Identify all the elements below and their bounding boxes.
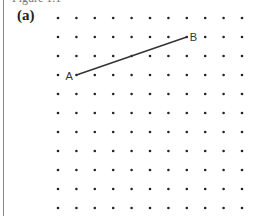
grid-dot bbox=[94, 188, 97, 191]
grid-dot bbox=[94, 17, 97, 20]
grid-dot bbox=[149, 150, 152, 153]
grid-dot bbox=[57, 17, 60, 20]
grid-dot bbox=[75, 36, 78, 39]
grid-dot bbox=[112, 93, 115, 96]
grid-dot bbox=[94, 207, 97, 210]
grid-dot bbox=[222, 169, 225, 172]
point-label-a: A bbox=[65, 70, 73, 82]
grid-dot bbox=[112, 150, 115, 153]
grid-dot bbox=[75, 169, 78, 172]
grid-dot bbox=[186, 93, 189, 96]
grid-dot bbox=[57, 169, 60, 172]
grid-dot bbox=[130, 131, 133, 134]
grid-dot bbox=[204, 150, 207, 153]
grid-dot bbox=[112, 112, 115, 115]
grid-dot bbox=[75, 150, 78, 153]
grid-dot bbox=[241, 150, 244, 153]
point-label-b: B bbox=[190, 31, 197, 43]
grid-dot bbox=[186, 207, 189, 210]
grid-dot bbox=[112, 188, 115, 191]
grid-dot bbox=[241, 112, 244, 115]
grid-dot bbox=[186, 188, 189, 191]
grid-dot bbox=[186, 131, 189, 134]
grid-dot bbox=[167, 17, 170, 20]
grid-dot bbox=[112, 74, 115, 77]
grid-dot bbox=[186, 17, 189, 20]
grid-dot bbox=[241, 55, 244, 58]
grid-dot bbox=[149, 131, 152, 134]
grid-dot bbox=[204, 131, 207, 134]
grid-dot bbox=[241, 188, 244, 191]
grid-dot bbox=[222, 36, 225, 39]
grid-dot bbox=[167, 93, 170, 96]
grid-dot bbox=[241, 207, 244, 210]
grid-dot bbox=[167, 188, 170, 191]
grid-dot bbox=[222, 17, 225, 20]
grid-dot bbox=[130, 150, 133, 153]
grid-dot bbox=[75, 131, 78, 134]
grid-dot bbox=[186, 150, 189, 153]
grid-dot bbox=[57, 93, 60, 96]
grid-dot bbox=[75, 188, 78, 191]
grid-dot bbox=[94, 55, 97, 58]
grid-dot bbox=[57, 207, 60, 210]
grid-dot bbox=[112, 17, 115, 20]
grid-dot bbox=[149, 188, 152, 191]
grid-dot bbox=[204, 207, 207, 210]
grid-dot bbox=[167, 207, 170, 210]
grid-dot bbox=[167, 36, 170, 39]
grid-dot bbox=[149, 207, 152, 210]
grid-dot bbox=[186, 74, 189, 77]
grid-dot bbox=[241, 74, 244, 77]
grid-dot bbox=[149, 74, 152, 77]
grid-dot bbox=[204, 188, 207, 191]
grid-dot bbox=[167, 55, 170, 58]
dot-grid-diagram: AB bbox=[0, 0, 264, 216]
grid-dot bbox=[94, 112, 97, 115]
grid-dot bbox=[75, 112, 78, 115]
grid-dot bbox=[112, 169, 115, 172]
grid-dot bbox=[222, 112, 225, 115]
grid-dot bbox=[130, 17, 133, 20]
grid-dot bbox=[75, 207, 78, 210]
grid-dot bbox=[222, 55, 225, 58]
grid-dot bbox=[167, 169, 170, 172]
grid-dot bbox=[222, 93, 225, 96]
grid-dot bbox=[204, 36, 207, 39]
dot-grid bbox=[57, 17, 244, 210]
grid-dot bbox=[241, 17, 244, 20]
grid-dot bbox=[57, 55, 60, 58]
grid-dot bbox=[94, 131, 97, 134]
grid-dot bbox=[241, 169, 244, 172]
grid-dot bbox=[204, 93, 207, 96]
grid-dot bbox=[167, 131, 170, 134]
grid-dot bbox=[112, 55, 115, 58]
grid-dot bbox=[112, 207, 115, 210]
grid-dot bbox=[57, 131, 60, 134]
segment-line bbox=[76, 37, 186, 75]
grid-dot bbox=[130, 188, 133, 191]
grid-dot bbox=[186, 55, 189, 58]
grid-dot bbox=[204, 169, 207, 172]
grid-dot bbox=[167, 150, 170, 153]
grid-dot bbox=[222, 131, 225, 134]
grid-dot bbox=[204, 112, 207, 115]
grid-dot bbox=[130, 93, 133, 96]
grid-dot bbox=[149, 93, 152, 96]
grid-dot bbox=[130, 169, 133, 172]
grid-dot bbox=[94, 150, 97, 153]
grid-dot bbox=[130, 74, 133, 77]
grid-dot bbox=[149, 169, 152, 172]
grid-dot bbox=[186, 169, 189, 172]
grid-dot bbox=[204, 55, 207, 58]
grid-dot bbox=[186, 112, 189, 115]
grid-dot bbox=[94, 169, 97, 172]
grid-dot bbox=[130, 112, 133, 115]
grid-dot bbox=[167, 74, 170, 77]
grid-dot bbox=[75, 93, 78, 96]
grid-dot bbox=[241, 36, 244, 39]
grid-dot bbox=[75, 17, 78, 20]
grid-dot bbox=[94, 93, 97, 96]
grid-dot bbox=[57, 112, 60, 115]
grid-dot bbox=[94, 74, 97, 77]
